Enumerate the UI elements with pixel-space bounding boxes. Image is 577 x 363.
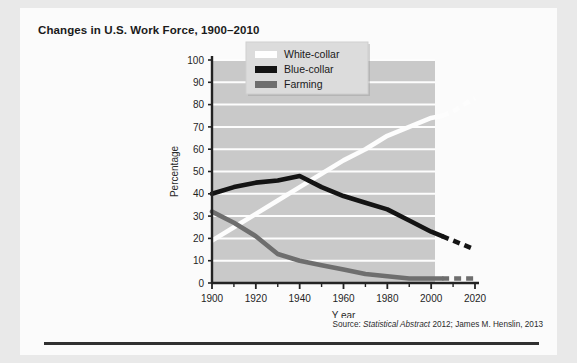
source-prefix: Source: [333, 320, 361, 329]
figure-panel: Changes in U.S. Work Force, 1900–2010 01… [20, 8, 557, 355]
x-tick-labels-group: 1900192019401960198020002020 [201, 293, 487, 304]
x-tick-label: 1920 [245, 293, 268, 304]
series-projection-blue-collar [442, 236, 475, 249]
chart-plot-area: 0102030405060708090100 19001920194019601… [20, 38, 557, 318]
y-tick-label: 10 [193, 255, 205, 266]
y-tick-label: 70 [193, 122, 205, 133]
y-tick-label: 30 [193, 211, 205, 222]
y-axis-title: Percentage [169, 145, 180, 197]
legend-group: White-collarBlue-collarFarming [246, 42, 370, 96]
source-publication: Statistical Abstract [363, 320, 430, 329]
source-remainder: 2012; James M. Henslin, 2013 [432, 320, 543, 329]
x-tick-label: 1900 [201, 293, 224, 304]
legend-label-white-collar: White-collar [284, 48, 340, 60]
page-title: Changes in U.S. Work Force, 1900–2010 [38, 24, 259, 36]
x-tick-label: 1960 [332, 293, 355, 304]
y-tick-label: 50 [193, 166, 205, 177]
y-tick-label: 100 [187, 55, 204, 66]
legend-swatch-blue-collar [255, 66, 277, 73]
y-tick-label: 20 [193, 233, 205, 244]
bottom-divider [44, 342, 539, 345]
x-axis-title: Y ear [332, 310, 356, 318]
source-citation: Source: Statistical Abstract 2012; James… [333, 320, 543, 329]
legend-label-farming: Farming [284, 78, 323, 90]
legend-swatch-white-collar [255, 51, 277, 58]
y-tick-label: 40 [193, 188, 205, 199]
y-tick-labels-group: 0102030405060708090100 [187, 55, 204, 289]
x-tick-label: 1980 [376, 293, 399, 304]
series-projection-white-collar [442, 98, 475, 116]
y-tick-label: 80 [193, 99, 205, 110]
legend-swatch-farming [255, 81, 277, 88]
line-chart-svg: 0102030405060708090100 19001920194019601… [20, 38, 557, 318]
x-tick-label: 2020 [464, 293, 487, 304]
y-tick-label: 60 [193, 144, 205, 155]
y-tick-label: 90 [193, 77, 205, 88]
legend-label-blue-collar: Blue-collar [284, 63, 334, 75]
y-tick-label: 0 [198, 278, 204, 289]
x-tick-label: 2000 [420, 293, 443, 304]
x-tick-label: 1940 [289, 293, 312, 304]
